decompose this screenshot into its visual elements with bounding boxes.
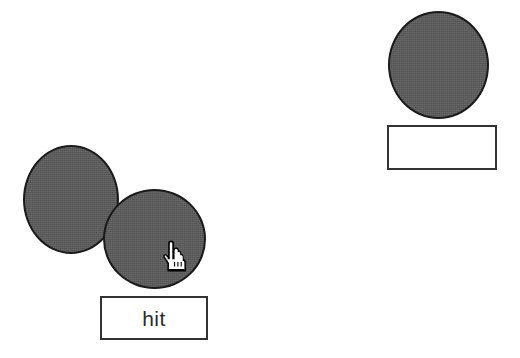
- target-circle-right[interactable]: [388, 11, 489, 119]
- status-box-right: [387, 125, 497, 170]
- draggable-circle-left[interactable]: [103, 189, 206, 289]
- demo-canvas: hit: [0, 0, 520, 358]
- status-label-left: hit: [142, 308, 166, 329]
- status-box-left: hit: [100, 296, 208, 340]
